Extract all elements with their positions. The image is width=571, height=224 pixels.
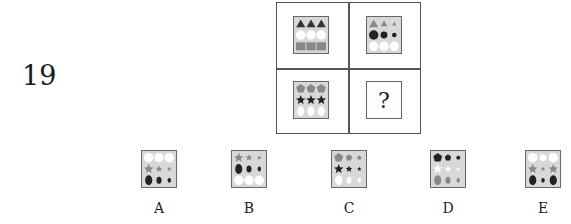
circle-shape	[379, 42, 388, 51]
square-shape	[317, 42, 326, 50]
circle-shape	[369, 42, 378, 51]
triangle-shape	[317, 19, 326, 27]
oval-shape	[297, 106, 304, 116]
circle-shape	[154, 153, 163, 162]
pentagon-shape	[346, 154, 352, 160]
triangle-shape	[381, 21, 388, 27]
circle-shape	[540, 154, 547, 161]
circle-shape	[165, 153, 174, 162]
question-number: 19	[22, 60, 56, 91]
square-shape	[306, 42, 315, 50]
oval-shape	[358, 178, 361, 183]
shape-grid	[526, 151, 560, 187]
pentagon-shape	[296, 84, 305, 93]
star-shape	[445, 165, 452, 171]
triangle-shape	[306, 19, 315, 27]
oval-shape	[258, 167, 261, 172]
star-shape	[456, 167, 461, 171]
star-shape	[234, 153, 243, 162]
circle-shape	[549, 153, 558, 162]
star-shape	[541, 167, 546, 171]
star-shape	[296, 95, 305, 104]
triangle-shape	[296, 19, 305, 27]
oval-shape	[145, 175, 152, 185]
oval-shape	[246, 165, 251, 172]
circle-shape	[144, 153, 153, 162]
pentagon-shape	[445, 154, 451, 160]
shape-grid	[232, 151, 266, 187]
matrix-cell-top-left	[293, 16, 329, 54]
option-c-tile[interactable]	[331, 150, 367, 188]
star-shape	[549, 164, 558, 173]
star-shape	[528, 164, 537, 173]
circle-shape	[317, 30, 326, 39]
pentagon-shape	[433, 153, 442, 162]
oval-shape	[346, 177, 351, 184]
oval-shape	[529, 175, 536, 185]
circle-shape	[244, 176, 253, 185]
oval-shape	[318, 106, 325, 116]
matrix-cell-bottom-left	[293, 81, 329, 119]
pentagon-shape	[456, 155, 460, 159]
circle-shape	[296, 30, 305, 39]
star-shape	[317, 95, 326, 104]
oval-shape	[434, 175, 441, 185]
matrix-divider-horizontal	[277, 68, 420, 70]
shape-grid	[332, 151, 366, 187]
shape-grid	[294, 17, 328, 53]
oval-shape	[307, 106, 314, 116]
option-d-label[interactable]: D	[430, 200, 466, 216]
option-a-label[interactable]: A	[141, 200, 177, 216]
star-shape	[346, 165, 353, 171]
pentagon-shape	[317, 84, 326, 93]
option-b-tile[interactable]	[231, 150, 267, 188]
matrix-cell-top-right	[366, 16, 402, 54]
puzzle-matrix: ?	[276, 2, 421, 134]
star-shape	[156, 165, 163, 171]
star-shape	[306, 95, 315, 104]
pentagon-shape	[334, 153, 343, 162]
oval-shape	[457, 178, 460, 183]
oval-shape	[445, 177, 450, 184]
shape-grid	[294, 82, 328, 118]
star-shape	[144, 164, 153, 173]
option-e-label[interactable]: E	[525, 200, 561, 216]
option-c-label[interactable]: C	[331, 200, 367, 216]
option-e-tile[interactable]	[525, 150, 561, 188]
star-shape	[357, 167, 362, 171]
square-shape	[296, 42, 305, 50]
pentagon-shape	[307, 84, 316, 93]
star-shape	[257, 155, 262, 159]
option-d-tile[interactable]	[430, 150, 466, 188]
oval-shape	[235, 164, 242, 174]
circle-shape	[381, 32, 388, 39]
star-shape	[334, 164, 343, 173]
star-shape	[433, 164, 442, 173]
circle-shape	[390, 42, 399, 51]
oval-shape	[156, 177, 161, 184]
shape-grid	[367, 17, 401, 53]
star-shape	[246, 154, 253, 160]
shape-grid	[431, 151, 465, 187]
circle-shape	[392, 33, 397, 38]
circle-shape	[528, 153, 537, 162]
oval-shape	[541, 178, 544, 183]
circle-shape	[369, 30, 378, 39]
oval-shape	[335, 175, 342, 185]
star-shape	[167, 167, 172, 171]
pentagon-shape	[357, 155, 361, 159]
triangle-shape	[369, 19, 378, 27]
option-b-label[interactable]: B	[231, 200, 267, 216]
oval-shape	[550, 175, 557, 185]
circle-shape	[234, 176, 243, 185]
option-a-tile[interactable]	[141, 150, 177, 188]
matrix-cell-missing: ?	[366, 81, 402, 119]
shape-grid	[142, 151, 176, 187]
circle-shape	[306, 30, 315, 39]
triangle-shape	[392, 22, 396, 26]
question-mark: ?	[378, 88, 390, 113]
oval-shape	[168, 178, 171, 183]
circle-shape	[255, 176, 264, 185]
